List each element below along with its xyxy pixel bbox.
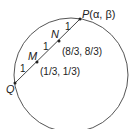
segment-label-MN: 1 xyxy=(43,41,49,52)
coord-M: (1/3, 1/3) xyxy=(40,66,80,77)
label-N: N xyxy=(51,28,59,40)
coord-N: (8/3, 8/3) xyxy=(62,46,102,57)
segment-label-QM: 1 xyxy=(20,63,26,74)
circle-diagram: P(α, β) Q M N (1/3, 1/3) (8/3, 8/3) 1 1 … xyxy=(0,0,129,129)
label-Q: Q xyxy=(6,83,15,95)
segment-label-NP: 1 xyxy=(65,21,71,32)
label-P: P(α, β) xyxy=(82,8,115,20)
label-M: M xyxy=(28,50,38,62)
